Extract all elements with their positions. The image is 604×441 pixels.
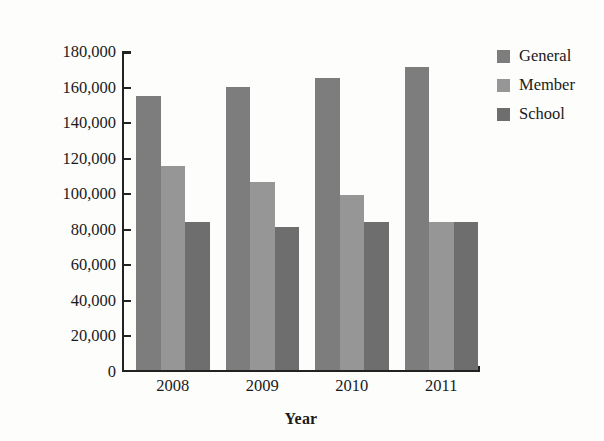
- bar-group-2010: [315, 52, 389, 370]
- bar-general-2011: [405, 67, 430, 370]
- legend-item-school[interactable]: School: [497, 100, 575, 129]
- x-axis-tick-labels: 2008200920102011: [122, 376, 480, 400]
- bar-general-2010: [315, 78, 340, 370]
- y-axis-tick-label: 40,000: [32, 293, 116, 310]
- bars-layer: [124, 52, 480, 370]
- bar-school-2008: [185, 222, 210, 370]
- y-axis-tick-label: 60,000: [32, 257, 116, 274]
- y-axis-tick-label: 80,000: [32, 222, 116, 239]
- plot-area: [122, 52, 480, 372]
- y-axis-tick-label: 20,000: [32, 328, 116, 345]
- y-axis-tick-label: 100,000: [32, 186, 116, 203]
- legend-label: Member: [519, 77, 575, 94]
- legend-label: General: [519, 48, 571, 65]
- x-axis-tick-label-2009: 2009: [246, 376, 279, 396]
- y-axis-tick-label: 140,000: [32, 115, 116, 132]
- legend-swatch-icon-member: [497, 79, 510, 92]
- legend-label: School: [519, 106, 565, 123]
- y-axis-tick-label: 120,000: [32, 150, 116, 167]
- legend-swatch-icon-general: [497, 50, 510, 63]
- x-axis-tick-label-2010: 2010: [335, 376, 368, 396]
- bar-general-2008: [136, 96, 161, 370]
- bar-member-2009: [250, 182, 275, 370]
- y-axis-tick-label: 160,000: [32, 79, 116, 96]
- bar-group-2011: [405, 52, 479, 370]
- bar-member-2011: [429, 222, 454, 370]
- bar-chart: Attendance 020,00040,00060,00080,000100,…: [0, 0, 604, 441]
- bar-school-2011: [454, 222, 479, 370]
- chart-legend: GeneralMemberSchool: [497, 42, 575, 129]
- bar-member-2008: [161, 166, 186, 370]
- bar-group-2008: [136, 52, 210, 370]
- legend-item-general[interactable]: General: [497, 42, 575, 71]
- x-axis-tick-label-2008: 2008: [156, 376, 189, 396]
- x-axis-tick-label-2011: 2011: [425, 376, 457, 396]
- y-axis-tick-label: 180,000: [32, 44, 116, 61]
- legend-swatch-icon-school: [497, 108, 510, 121]
- bar-school-2010: [364, 222, 389, 370]
- y-axis-tick-labels: 020,00040,00060,00080,000100,000120,0001…: [32, 52, 116, 372]
- bar-member-2010: [340, 195, 365, 370]
- bar-group-2009: [226, 52, 300, 370]
- bar-general-2009: [226, 87, 251, 370]
- bar-school-2009: [275, 227, 300, 370]
- y-axis-tick-label: 0: [32, 364, 116, 381]
- legend-item-member[interactable]: Member: [497, 71, 575, 100]
- x-axis-title: Year: [122, 410, 480, 428]
- x-axis-line: [122, 370, 480, 372]
